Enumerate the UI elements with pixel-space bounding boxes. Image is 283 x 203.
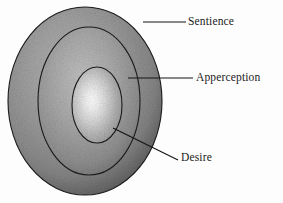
label-apperception: Apperception	[196, 72, 260, 84]
label-desire: Desire	[181, 152, 212, 164]
concentric-ellipse-diagram	[0, 0, 283, 203]
label-sentience: Sentience	[188, 16, 234, 28]
diagram-canvas: Sentience Apperception Desire	[0, 0, 283, 203]
ring-inner-desire	[72, 67, 122, 143]
